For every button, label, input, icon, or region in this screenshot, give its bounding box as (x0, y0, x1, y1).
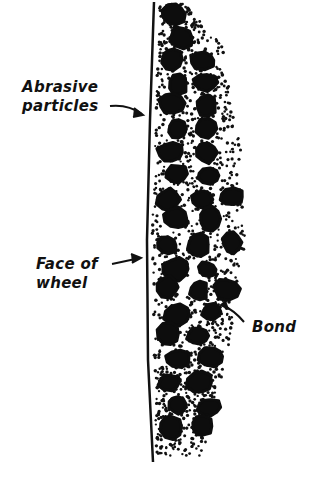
bond-dot (184, 70, 187, 73)
bond-dot (158, 402, 161, 405)
bond-dot (224, 106, 227, 109)
bond-dot (156, 67, 160, 71)
label-abrasive-line2: particles (22, 97, 98, 116)
bond-dot (154, 311, 157, 314)
bond-dot (220, 246, 223, 249)
bond-dot (187, 152, 190, 155)
abrasive-grain (157, 276, 178, 299)
bond-dot (212, 370, 216, 374)
bond-dot (187, 396, 190, 399)
bond-dot (200, 440, 203, 443)
bond-dot (243, 234, 246, 237)
bond-dot (216, 158, 219, 161)
bond-dot (185, 257, 188, 260)
bond-dot (197, 366, 201, 370)
bond-dot (162, 407, 164, 409)
bond-dot (179, 438, 181, 440)
bond-dot (154, 205, 157, 208)
bond-dot (158, 174, 160, 176)
bond-dot (229, 151, 231, 153)
bond-dot (228, 176, 231, 179)
bond-dot (236, 263, 239, 266)
bond-dot (160, 452, 162, 454)
bond-dot (190, 127, 193, 130)
bond-dot (214, 375, 217, 378)
bond-dot (235, 173, 238, 176)
bond-dot (216, 49, 219, 52)
bond-dot (153, 246, 156, 249)
bond-dot (182, 66, 185, 69)
abrasive-grain (187, 328, 209, 344)
bond-dot (193, 358, 197, 362)
bond-dot (192, 134, 195, 137)
bond-dot (230, 184, 233, 187)
bond-dot (155, 444, 158, 447)
abrasive-grain (199, 262, 217, 277)
bond-dot (190, 437, 193, 440)
bond-dot (155, 193, 157, 195)
bond-dot (216, 163, 219, 166)
bond-dot (217, 53, 219, 55)
bond-dot (169, 443, 172, 446)
bond-dot (231, 142, 234, 145)
bond-dot (227, 225, 230, 228)
bond-dot (191, 210, 193, 212)
bond-dot (155, 175, 157, 177)
bond-dot (183, 368, 185, 370)
bond-dot (158, 180, 161, 183)
bond-dot (214, 321, 217, 324)
label-bond: Bond (252, 318, 296, 337)
bond-dot (199, 24, 202, 27)
bond-dot (195, 21, 197, 23)
bond-dot (219, 161, 222, 164)
bond-dot (174, 442, 176, 444)
bond-dot (214, 335, 218, 339)
bond-dot (198, 20, 201, 23)
bond-dot (204, 47, 208, 51)
abrasive-grain (214, 279, 240, 300)
abrasive-grain (157, 143, 182, 161)
bond-dot (234, 276, 236, 278)
bond-dot (163, 166, 165, 168)
abrasive-grain (159, 94, 185, 114)
bond-dot (217, 46, 220, 49)
bond-dot (217, 240, 219, 242)
bond-dot (165, 255, 168, 258)
abrasive-grain (170, 74, 186, 94)
bond-dot (165, 447, 168, 450)
bond-dot (220, 137, 223, 140)
bond-dot (230, 260, 232, 262)
bond-dot (231, 148, 233, 150)
bond-dot (192, 170, 195, 173)
bond-dot (161, 123, 164, 126)
bond-dot (162, 394, 165, 397)
bond-dot (215, 332, 218, 335)
bond-dot (195, 72, 198, 75)
bond-dot (155, 228, 158, 231)
abrasive-grain (169, 120, 187, 138)
bond-dot (172, 231, 174, 233)
arrow-bond (221, 301, 244, 322)
bond-dot (241, 206, 244, 209)
bond-dot (234, 143, 237, 146)
bond-dot (195, 353, 198, 356)
bond-dot (228, 216, 231, 219)
bond-dot (159, 317, 162, 320)
bond-dot (158, 86, 161, 89)
bond-dot (159, 114, 161, 116)
bond-dot (237, 143, 241, 147)
bond-dot (195, 223, 198, 226)
bond-dot (189, 99, 192, 102)
bond-dot (221, 368, 224, 371)
bond-dot (151, 223, 154, 226)
bond-dot (219, 68, 222, 71)
bond-dot (220, 322, 224, 326)
bond-dot (241, 230, 244, 233)
bond-dot (158, 43, 161, 46)
bond-dot (188, 399, 191, 402)
bond-dot (188, 197, 190, 199)
bond-dot (186, 105, 189, 108)
bond-dot (229, 326, 233, 330)
bond-dot (187, 423, 190, 426)
bond-dot (216, 132, 219, 135)
